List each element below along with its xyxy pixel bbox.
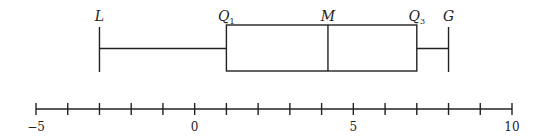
label-l: L	[94, 8, 104, 24]
label-q3: Q3	[409, 8, 426, 26]
box-plot-diagram: LQ1MQ3G −50510	[0, 0, 544, 139]
interquartile-box	[226, 25, 416, 71]
label-g: G	[443, 8, 454, 24]
box-plot-svg: LQ1MQ3G −50510	[0, 0, 544, 139]
tick-label: 0	[191, 120, 199, 134]
tick-label: 5	[350, 120, 358, 134]
number-line-axis: −50510	[27, 103, 519, 134]
tick-label: −5	[27, 120, 45, 134]
tick-label: 10	[504, 120, 519, 134]
label-q1: Q1	[218, 8, 235, 26]
quartile-labels: LQ1MQ3G	[94, 8, 454, 26]
box-and-whisker	[99, 25, 448, 72]
label-m: M	[320, 8, 336, 24]
